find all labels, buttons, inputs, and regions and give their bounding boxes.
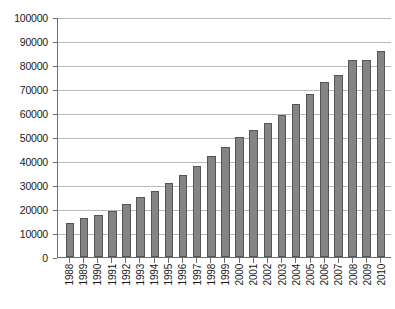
bar[interactable] (377, 51, 386, 257)
x-tick-slot (360, 258, 374, 263)
x-label-slot: 1991 (105, 264, 119, 309)
x-label-slot: 1988 (62, 264, 76, 309)
bar[interactable] (278, 115, 287, 257)
x-tick-label: 2005 (305, 264, 316, 285)
x-label-slot: 2007 (331, 264, 345, 309)
bar[interactable] (348, 60, 357, 257)
x-tick-label: 2001 (248, 264, 259, 285)
x-tick-slot (218, 258, 232, 263)
x-label-slot: 2002 (260, 264, 274, 309)
x-tick-mark (69, 258, 70, 263)
y-tick-label: 0 (42, 252, 48, 264)
bar[interactable] (179, 175, 188, 257)
bar[interactable] (334, 75, 343, 257)
bar[interactable] (66, 223, 75, 257)
x-label-slot: 2001 (246, 264, 260, 309)
bar[interactable] (306, 94, 315, 257)
x-tick-slot (303, 258, 317, 263)
x-label-slot: 2008 (345, 264, 359, 309)
y-tick-label: 50000 (20, 132, 48, 144)
bar[interactable] (264, 123, 273, 257)
bar[interactable] (151, 191, 160, 257)
bar[interactable] (249, 130, 258, 257)
x-label-slot: 2010 (374, 264, 388, 309)
bar[interactable] (108, 211, 117, 257)
x-tick-label: 1997 (191, 264, 202, 285)
x-tick-label: 1994 (149, 264, 160, 285)
x-tick-slot (204, 258, 218, 263)
x-label-slot: 1997 (190, 264, 204, 309)
x-tick-label: 2004 (290, 264, 301, 285)
bar-slot (134, 18, 148, 257)
x-tick-slot (331, 258, 345, 263)
bar[interactable] (320, 82, 329, 257)
bar[interactable] (292, 104, 301, 257)
bar-slot (346, 18, 360, 257)
x-axis-ticks (57, 258, 391, 263)
x-tick-mark (196, 258, 197, 263)
bar[interactable] (122, 204, 131, 257)
x-tick-slot (246, 258, 260, 263)
x-tick-mark (224, 258, 225, 263)
bar[interactable] (362, 60, 371, 257)
x-tick-slot (190, 258, 204, 263)
bar[interactable] (193, 166, 202, 257)
bar-slot (317, 18, 331, 257)
x-tick-label: 2000 (234, 264, 245, 285)
bar[interactable] (165, 183, 174, 257)
bar-slot (148, 18, 162, 257)
x-tick-mark (139, 258, 140, 263)
x-label-slot: 1995 (161, 264, 175, 309)
x-tick-slot (317, 258, 331, 263)
bar-slot (261, 18, 275, 257)
plot-area (57, 18, 391, 258)
x-tick-mark (168, 258, 169, 263)
x-tick-slot (345, 258, 359, 263)
bar-slot (204, 18, 218, 257)
bar[interactable] (207, 156, 216, 257)
bar[interactable] (136, 197, 145, 257)
bar-slot (275, 18, 289, 257)
x-tick-slot (76, 258, 90, 263)
x-tick-slot (289, 258, 303, 263)
x-tick-slot (175, 258, 189, 263)
x-tick-label: 2003 (276, 264, 287, 285)
bar[interactable] (94, 215, 103, 257)
bar[interactable] (235, 137, 244, 257)
x-tick-mark (154, 258, 155, 263)
x-tick-mark (366, 258, 367, 263)
y-tick-label: 10000 (20, 228, 48, 240)
x-tick-mark (352, 258, 353, 263)
y-tick-label: 100000 (14, 12, 48, 24)
x-tick-slot (260, 258, 274, 263)
x-tick-mark (324, 258, 325, 263)
x-tick-label: 1998 (205, 264, 216, 285)
bar-slot (360, 18, 374, 257)
x-tick-mark (253, 258, 254, 263)
x-tick-label: 2007 (333, 264, 344, 285)
x-axis: 1988198919901991199219931994199519961997… (57, 264, 391, 309)
x-tick-slot (275, 258, 289, 263)
x-label-slot: 2000 (232, 264, 246, 309)
bar[interactable] (80, 218, 89, 257)
x-label-slot: 2004 (289, 264, 303, 309)
x-tick-label: 1996 (177, 264, 188, 285)
y-tick-label: 30000 (20, 180, 48, 192)
x-tick-label: 1989 (78, 264, 89, 285)
x-tick-label: 1990 (92, 264, 103, 285)
bar[interactable] (221, 147, 230, 257)
x-tick-mark (182, 258, 183, 263)
x-tick-label: 2006 (319, 264, 330, 285)
x-tick-label: 1993 (134, 264, 145, 285)
bar-slot (331, 18, 345, 257)
x-tick-slot (105, 258, 119, 263)
x-tick-slot (147, 258, 161, 263)
bar-slot (77, 18, 91, 257)
x-tick-slot (161, 258, 175, 263)
y-tick-label: 80000 (20, 60, 48, 72)
x-tick-label: 1995 (163, 264, 174, 285)
x-tick-slot (62, 258, 76, 263)
x-label-slot: 2009 (360, 264, 374, 309)
bar-slot (289, 18, 303, 257)
bars-container (58, 18, 391, 257)
